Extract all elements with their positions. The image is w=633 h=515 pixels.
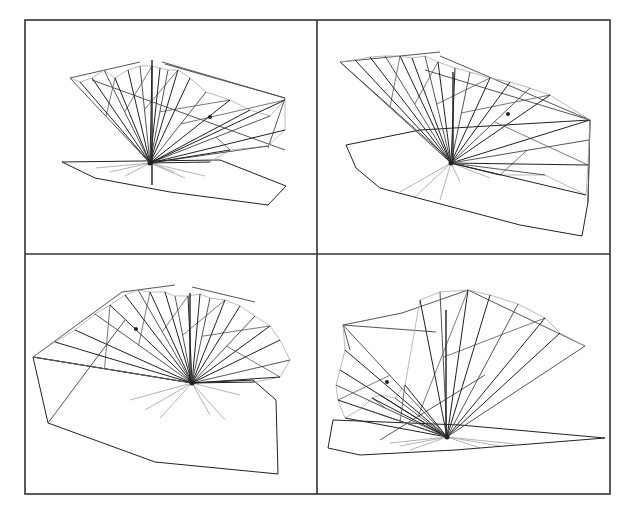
wireframe-figure: [0, 0, 633, 515]
mesh-rim: [345, 408, 362, 418]
mesh-rim: [210, 298, 225, 300]
mesh-rim: [128, 66, 140, 70]
mesh-ray: [192, 316, 255, 383]
mesh-ray: [420, 300, 447, 437]
mesh-ray: [372, 398, 447, 437]
mesh-rim: [420, 292, 440, 300]
mesh-ray: [75, 330, 192, 383]
mesh-ray: [336, 385, 447, 437]
mesh-ray: [405, 385, 447, 437]
mesh-rim: [586, 165, 588, 195]
mesh-rim: [255, 316, 270, 326]
mesh-ray: [447, 333, 560, 437]
mesh-rim: [178, 70, 190, 78]
mesh-rim: [405, 300, 420, 385]
mesh-ray: [345, 350, 447, 437]
mesh-ray: [150, 70, 178, 163]
mesh-ray: [70, 78, 150, 163]
marker-dot: [385, 380, 389, 384]
mesh-ray: [451, 163, 588, 165]
mesh-ray-light: [192, 383, 225, 420]
mesh-rim: [75, 314, 95, 330]
mesh-rim: [530, 88, 550, 95]
mesh-rim: [370, 56, 385, 57]
mesh-rim: [160, 68, 168, 70]
mesh-rim: [545, 175, 586, 195]
mesh-rim: [338, 400, 345, 418]
mesh-rim: [425, 56, 438, 62]
mesh-rim: [280, 360, 290, 377]
marker-dot: [208, 115, 212, 119]
mesh-rim: [110, 295, 125, 305]
marker-dot: [134, 327, 138, 331]
apex-point: [190, 381, 195, 386]
mesh-ray: [355, 60, 451, 163]
mesh-ray: [140, 66, 150, 163]
mesh-rim: [206, 92, 230, 100]
mesh-rim: [33, 342, 55, 357]
mesh-rim: [240, 306, 255, 316]
mesh-ray: [451, 78, 490, 163]
mesh-ray: [150, 292, 192, 383]
mesh-edge: [468, 290, 585, 346]
panel-bottom-left: [33, 285, 290, 474]
mesh-ray: [385, 56, 451, 163]
mesh-rim: [400, 56, 412, 58]
marker-dot: [506, 112, 510, 116]
mesh-rim: [438, 62, 455, 68]
mesh-rim: [55, 330, 75, 342]
mesh-rim: [340, 350, 345, 370]
mesh-ray-light: [150, 163, 185, 178]
mesh-rim: [280, 340, 290, 360]
mesh-ray: [192, 298, 210, 383]
mesh-ray: [451, 163, 545, 175]
mesh-rim: [152, 66, 160, 68]
mesh-ray-light: [192, 383, 240, 395]
mesh-ray-light: [145, 383, 192, 410]
mesh-ray: [362, 408, 447, 437]
mesh-ray: [192, 294, 200, 383]
mesh-ray-light: [110, 163, 150, 172]
mesh-rim: [455, 68, 470, 72]
panels-layer: [33, 52, 605, 474]
mesh-cross: [105, 305, 110, 369]
mesh-edge: [122, 285, 175, 292]
mesh-ray: [125, 295, 192, 383]
mesh-rim: [270, 100, 285, 116]
mesh-rim: [138, 290, 150, 292]
mesh-rim: [190, 78, 206, 92]
mesh-rim: [80, 78, 92, 82]
figure-canvas: [0, 0, 633, 515]
mesh-ray: [425, 56, 451, 163]
mesh-rim: [550, 95, 590, 120]
mesh-edge: [343, 313, 402, 325]
mesh-cross: [443, 318, 545, 357]
panel-top-right: [340, 52, 590, 236]
mesh-rim: [468, 290, 490, 295]
surface-outline: [33, 357, 278, 474]
mesh-rim: [225, 300, 240, 306]
panel-top-left: [62, 60, 286, 205]
mesh-ray: [447, 304, 518, 437]
mesh-ray: [451, 163, 500, 175]
mesh-rim: [560, 333, 585, 346]
mesh-ray-light: [192, 383, 210, 415]
panel-bottom-right: [328, 290, 605, 455]
mesh-edge: [268, 98, 285, 148]
mesh-ray: [447, 346, 585, 437]
apex-point: [148, 161, 153, 166]
mesh-ray: [95, 314, 192, 383]
mesh-edge: [440, 56, 590, 120]
mesh-rim: [336, 370, 340, 385]
surface-outline: [62, 160, 286, 205]
mesh-edge: [402, 290, 468, 313]
mesh-ray-light: [150, 163, 205, 176]
surface-outline: [328, 420, 605, 455]
mesh-ray-light: [130, 383, 192, 400]
mesh-edge: [343, 325, 436, 332]
mesh-ray-light: [160, 383, 192, 418]
surface-outline: [346, 120, 590, 236]
apex-point: [445, 435, 450, 440]
mesh-ray: [104, 70, 150, 163]
apex-point: [449, 161, 454, 166]
